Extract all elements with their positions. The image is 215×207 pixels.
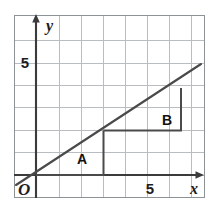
region-label-b: B — [162, 112, 172, 128]
x-axis-label: x — [189, 180, 198, 197]
region-label-a: A — [77, 151, 87, 167]
x-axis-tick-label-5: 5 — [146, 180, 154, 197]
y-axis-tick-label-5: 5 — [21, 54, 29, 71]
coordinate-grid-svg: 5 5 y x O A B — [0, 0, 215, 207]
origin-label: O — [18, 180, 30, 199]
coordinate-figure: 5 5 y x O A B — [0, 0, 215, 207]
y-axis-label: y — [44, 17, 54, 35]
